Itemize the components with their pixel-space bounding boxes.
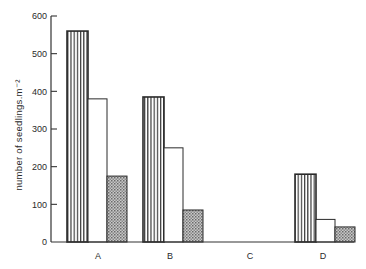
y-tick-label: 400 — [32, 87, 47, 97]
y-tick-label: 300 — [32, 124, 47, 134]
y-tick-label: 200 — [32, 162, 47, 172]
bar-b-3 — [183, 210, 203, 242]
y-axis-title: number of seedlings.m⁻² — [13, 79, 24, 190]
bar-d-2 — [316, 219, 335, 242]
y-tick-label: 500 — [32, 49, 47, 59]
bar-d-1 — [295, 174, 316, 242]
x-axis: ABCD — [51, 242, 354, 261]
bars — [67, 31, 355, 242]
bar-group-d — [295, 174, 355, 242]
bar-b-1 — [143, 97, 164, 242]
y-tick-label: 0 — [42, 237, 47, 247]
y-axis: 0100200300400500600 — [32, 11, 57, 247]
bar-a-2 — [88, 99, 107, 242]
bar-a-1 — [67, 31, 88, 242]
x-category-label: B — [167, 251, 173, 261]
y-tick-label: 100 — [32, 200, 47, 210]
bar-chart: number of seedlings.m⁻² 0100200300400500… — [0, 0, 366, 269]
x-category-label: D — [320, 251, 327, 261]
bar-group-a — [67, 31, 127, 242]
bar-d-3 — [335, 227, 355, 242]
x-category-label: C — [247, 251, 254, 261]
y-tick-label: 600 — [32, 11, 47, 21]
bar-group-b — [143, 97, 203, 242]
bar-b-2 — [164, 148, 183, 242]
x-category-label: A — [95, 251, 101, 261]
bar-a-3 — [107, 176, 127, 242]
y-axis-label: number of seedlings.m⁻² — [13, 79, 24, 190]
